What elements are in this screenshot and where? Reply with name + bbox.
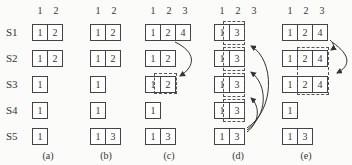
arrow-c [175, 42, 191, 76]
arrows-layer [0, 0, 352, 165]
arrow-d-s2 [247, 46, 269, 128]
arrow-e-1 [330, 40, 334, 50]
arrow-e-2 [332, 42, 347, 73]
